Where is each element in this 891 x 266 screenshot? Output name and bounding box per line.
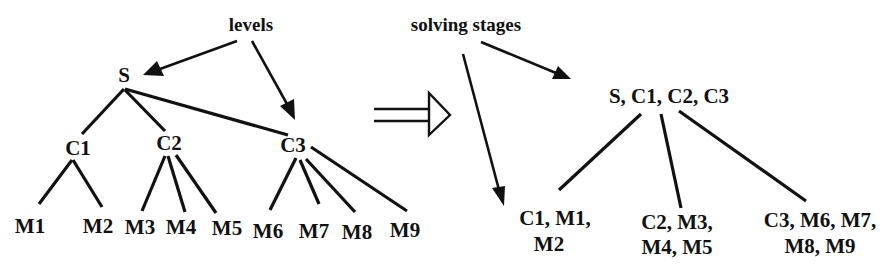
node-m5: M5 (212, 216, 242, 240)
stages-arrow-to-root (481, 42, 571, 79)
stage-root: S, C1, C2, C3 (609, 84, 729, 108)
node-m1: M1 (15, 214, 45, 238)
edges-c2-to-m (142, 155, 216, 213)
stage-node-3: C3, M6, M7, M8, M9 (764, 208, 877, 258)
node-m4: M4 (166, 215, 197, 239)
node-m8: M8 (342, 220, 372, 244)
edges-c1-to-m (39, 160, 102, 207)
node-c2: C2 (156, 131, 182, 155)
stage-node-2: C2, M3, M4, M5 (641, 210, 713, 259)
solving-stages-label: solving stages (411, 14, 521, 35)
stage-tree: solving stages S, C1, C2, C3 C1, M1, M2 (411, 14, 876, 259)
hierarchy-tree: levels S C1 C2 C3 (15, 14, 420, 244)
edges-s-to-c (82, 89, 288, 135)
levels-arrow-to-c3 (252, 41, 295, 120)
node-c1: C1 (65, 136, 91, 160)
node-m6: M6 (253, 219, 283, 243)
stage-node-3-line1: C3, M6, M7, (764, 208, 877, 232)
diagram-svg: levels S C1 C2 C3 (0, 0, 891, 266)
stage-node-1: C1, M1, M2 (519, 206, 591, 256)
node-c3: C3 (280, 133, 306, 157)
stage-node-3-line2: M8, M9 (784, 234, 855, 258)
stage-node-1-line1: C1, M1, (519, 206, 591, 230)
node-s: S (118, 63, 130, 87)
node-m9: M9 (390, 218, 420, 242)
stage-node-1-line2: M2 (534, 232, 564, 256)
stage-node-2-line1: C2, M3, (641, 210, 713, 234)
stages-arrow-to-leaf (463, 54, 505, 206)
implies-arrow-icon (374, 93, 450, 135)
node-m2: M2 (83, 214, 113, 238)
stage-edges (559, 111, 806, 208)
levels-arrow-to-s (143, 41, 237, 76)
diagram-canvas: levels S C1 C2 C3 (0, 0, 891, 266)
stage-node-2-line2: M4, M5 (641, 235, 712, 259)
node-m3: M3 (125, 215, 155, 239)
levels-label: levels (229, 14, 273, 35)
node-m7: M7 (299, 219, 329, 243)
